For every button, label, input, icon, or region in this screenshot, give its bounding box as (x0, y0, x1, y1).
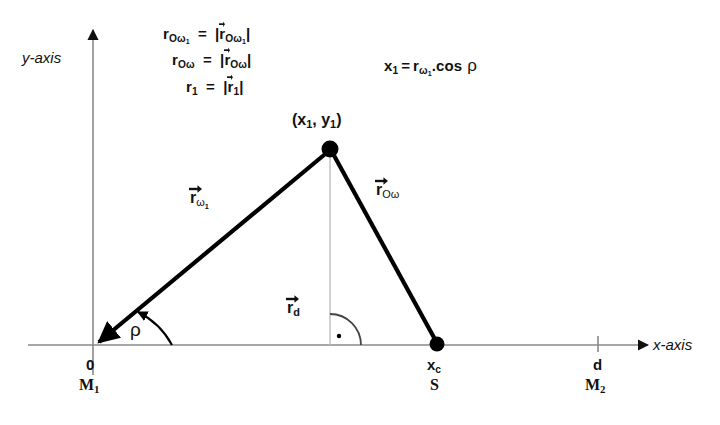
formula-x1-relation: x1=rω1.cosρ (384, 57, 477, 74)
formula-1-rhs: |rOω1| (215, 26, 250, 41)
right-angle-dot (337, 334, 341, 338)
label-d-value: d (593, 357, 602, 372)
formula-3-rhs: |r1| (223, 79, 243, 94)
label-d-name: M2 (585, 377, 606, 393)
x1-lhs: x1 (384, 57, 398, 74)
diagram-svg (0, 0, 720, 425)
segment-r-Oomega (331, 150, 437, 343)
apex-y: y (321, 111, 330, 128)
x-axis-label: x-axis (653, 337, 692, 352)
angle-arc-rho (138, 312, 172, 345)
label-vector-r-Oomega: rOω (376, 182, 399, 198)
apex-x: x (297, 111, 306, 128)
apex-point-label: (x1, y1) (292, 112, 341, 128)
label-angle-rho: ρ (130, 320, 141, 339)
x1-r-term: rω1 (413, 57, 432, 74)
point-apex (322, 141, 339, 158)
label-xc-value: xc (427, 357, 441, 372)
x1-equals: = (401, 57, 410, 74)
figure-canvas: y-axis x-axis rOω1 = |rOω1| rOω = |rOω| … (0, 0, 720, 425)
formula-2-equals: = (203, 51, 212, 68)
label-origin-name: M1 (79, 377, 100, 393)
formula-1-equals: = (198, 25, 207, 42)
right-angle-arc (330, 314, 361, 345)
formula-1-lhs: rOω1 (163, 25, 190, 42)
formula-2-lhs: rOω (172, 51, 195, 68)
formula-3-lhs: r1 (186, 78, 198, 95)
point-xc (430, 337, 445, 352)
label-vector-r-omega1: rω1 (190, 190, 209, 206)
apex-paren-close: ) (336, 111, 341, 128)
y-axis-label: y-axis (22, 50, 61, 65)
x1-angle-rho: ρ (467, 56, 477, 75)
formula-line-3: r1 = |r1| (186, 79, 243, 94)
label-vector-r-d: rd (287, 300, 300, 316)
formula-line-1: rOω1 = |rOω1| (163, 26, 250, 41)
formula-line-2: rOω = |rOω| (172, 52, 251, 67)
label-xc-name: S (430, 377, 439, 393)
formula-2-rhs: |rOω| (220, 52, 251, 67)
label-origin-value: 0 (86, 357, 94, 372)
formula-3-equals: = (206, 78, 215, 95)
x1-cos-op: .cos (432, 57, 462, 74)
apex-comma: , (312, 111, 321, 128)
